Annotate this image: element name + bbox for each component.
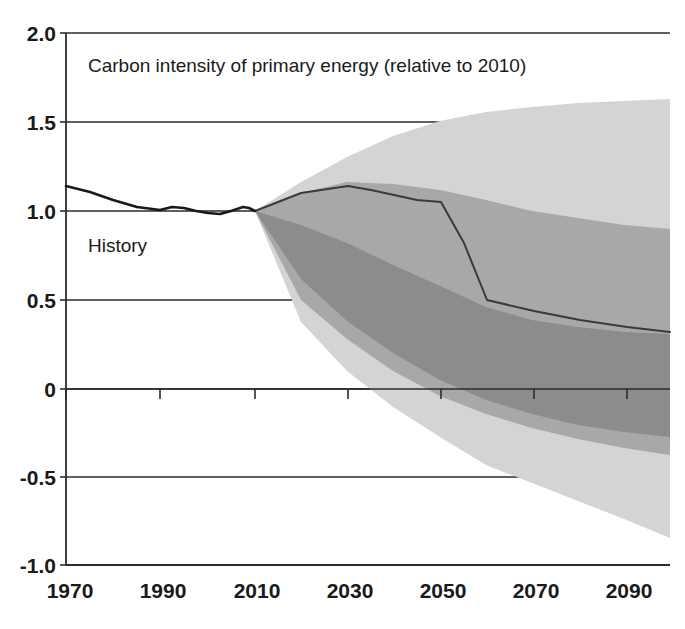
y-tick-label-neg-1-0: -1.0	[20, 554, 56, 577]
chart-title: Carbon intensity of primary energy (rela…	[88, 55, 526, 76]
x-tick-label-2070: 2070	[513, 579, 560, 602]
y-tick-label-neg-0-5: -0.5	[20, 466, 57, 489]
x-tick-label-2010: 2010	[234, 579, 281, 602]
x-tick-label-2030: 2030	[327, 579, 374, 602]
chart-canvas: Carbon intensity of primary energy (rela…	[0, 0, 685, 629]
x-tick-label-2090: 2090	[606, 579, 653, 602]
x-tick-label-1970: 1970	[47, 579, 94, 602]
y-tick-label-2-0: 2.0	[27, 22, 56, 45]
history-annotation: History	[88, 235, 148, 256]
y-tick-label-0-5: 0.5	[27, 289, 57, 312]
carbon-intensity-chart: Carbon intensity of primary energy (rela…	[0, 0, 685, 629]
y-tick-label-0: 0	[44, 378, 56, 401]
y-tick-labels: 2.0 1.5 1.0 0.5 0 -0.5 -1.0	[20, 22, 57, 577]
x-tick-label-1990: 1990	[140, 579, 187, 602]
x-tick-labels: 1970 1990 2010 2030 2050 2070 2090	[47, 579, 653, 602]
x-tick-label-2050: 2050	[420, 579, 467, 602]
y-tick-label-1-5: 1.5	[27, 111, 57, 134]
y-tick-label-1-0: 1.0	[27, 200, 56, 223]
